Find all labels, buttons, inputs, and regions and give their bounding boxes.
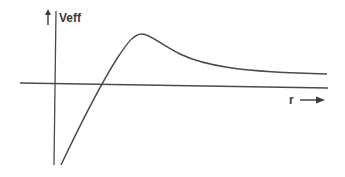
effective-potential-diagram: Veff r [0, 0, 345, 177]
y-axis-label: Veff [59, 11, 82, 25]
potential-curve [61, 34, 327, 165]
y-axis [54, 11, 56, 165]
x-axis [20, 83, 328, 88]
x-axis-label: r [289, 93, 294, 107]
y-arrow-icon [45, 9, 51, 25]
x-arrow-icon [300, 97, 325, 104]
